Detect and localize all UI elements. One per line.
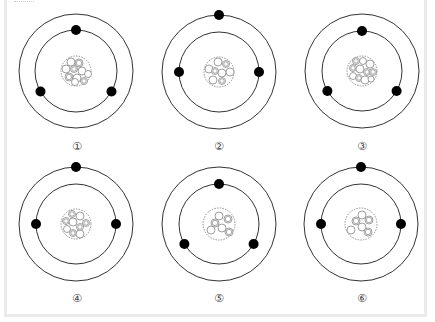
atom-model-5 (162, 167, 276, 281)
neutron-particle (218, 69, 226, 77)
electron-dot (36, 87, 46, 97)
electron-dot (356, 162, 366, 172)
electron-dot (214, 10, 224, 20)
neutron-particle (366, 60, 374, 68)
electron-dot (316, 219, 326, 229)
neutron-particle (69, 218, 77, 226)
electron-dot (322, 86, 332, 96)
electron-dot (357, 26, 367, 36)
neutron-particle (356, 65, 364, 73)
electron-dot (71, 162, 81, 172)
atom-model-2 (162, 10, 276, 129)
electron-dot (254, 67, 264, 77)
electron-dot (214, 179, 224, 189)
neutron-particle (72, 79, 79, 86)
atom-label-2: ② (214, 140, 224, 153)
atom-label-5: ⑤ (214, 292, 224, 305)
atom-models-diagram: ① ② ③ ④ ⑤ ⑥ (0, 0, 435, 322)
atom-model-3 (305, 14, 419, 128)
neutron-particle (85, 71, 92, 78)
neutron-particle (368, 76, 374, 82)
electron-dot (179, 239, 189, 249)
atom-label-6: ⑥ (357, 292, 367, 305)
neutron-particle (76, 212, 84, 220)
electron-dot (396, 219, 406, 229)
electron-dot (392, 86, 402, 96)
neutron-particle (226, 68, 234, 76)
neutron-particle (207, 226, 215, 234)
electron-dot (174, 67, 184, 77)
electron-dot (111, 219, 121, 229)
neutron-particle (214, 58, 222, 66)
atom-model-1 (19, 14, 133, 128)
electron-dot (31, 219, 41, 229)
electron-dot (249, 239, 259, 249)
atom-model-4 (19, 162, 133, 281)
neutron-particle (62, 65, 70, 73)
neutron-particle (209, 76, 217, 84)
neutron-particle (67, 58, 75, 66)
atom-label-1: ① (72, 140, 82, 153)
atom-label-3: ③ (357, 140, 367, 153)
electron-dot (71, 25, 81, 35)
electron-dot (107, 87, 117, 97)
atom-model-6 (304, 162, 418, 281)
neutron-particle (358, 211, 366, 219)
atom-label-4: ④ (72, 292, 82, 305)
neutron-particle (76, 230, 84, 238)
neutron-particle (347, 226, 355, 234)
neutron-particle (360, 58, 367, 65)
